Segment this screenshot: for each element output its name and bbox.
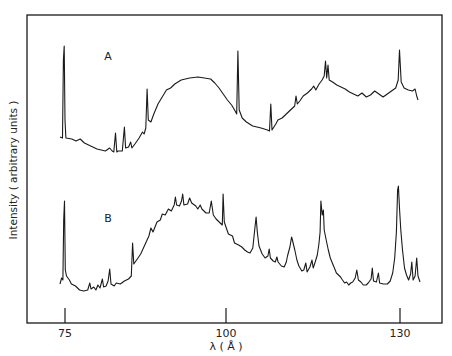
spectrum-curve-a bbox=[60, 46, 418, 152]
plot-frame bbox=[27, 15, 442, 323]
x-axis-label: λ ( Å ) bbox=[209, 340, 242, 353]
series-a-label: A bbox=[104, 50, 112, 63]
series-b-label: B bbox=[104, 212, 112, 225]
x-tick-labels: 75 100 130 bbox=[58, 327, 411, 340]
spectrum-curve-b bbox=[60, 186, 420, 291]
tick-label-130: 130 bbox=[390, 327, 411, 340]
spectrum-chart: 75 100 130 λ ( Å ) Intensity ( arbitrary… bbox=[0, 0, 452, 356]
y-axis-label: Intensity ( arbitrary units ) bbox=[7, 101, 19, 240]
tick-label-75: 75 bbox=[58, 327, 72, 340]
x-ticks bbox=[65, 308, 400, 323]
tick-label-100: 100 bbox=[216, 327, 237, 340]
